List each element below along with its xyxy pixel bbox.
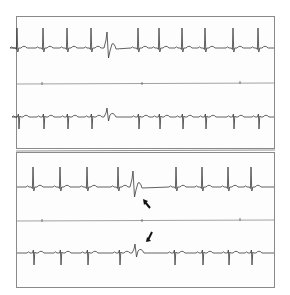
ecg-trace-strip-3 [17, 167, 274, 197]
ecg-trace-strip-4 [17, 244, 274, 265]
ecg-trace-strip-2 [12, 108, 274, 129]
panel-divider-bottom [16, 220, 275, 221]
ecg-traces [0, 0, 290, 295]
ecg-trace-strip-1 [10, 28, 274, 58]
panel-gap-line [16, 150, 275, 151]
panel-divider-top [16, 83, 275, 84]
ecg-trace-group [10, 28, 274, 265]
